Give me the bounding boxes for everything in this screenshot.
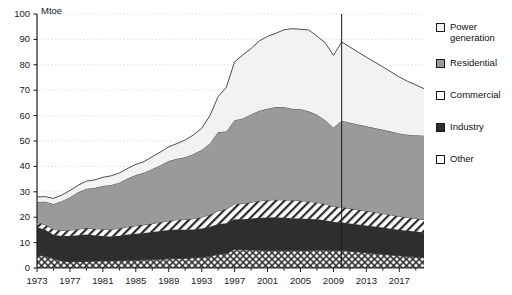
legend-label: Power generation [450, 22, 495, 43]
y-tick-label: 0 [0, 262, 30, 273]
x-tick-label: 1989 [151, 275, 187, 286]
y-tick-label: 20 [0, 211, 30, 222]
chart-plot-container: 0102030405060708090100 19731977198119851… [0, 0, 430, 295]
legend-label: Residential [450, 58, 497, 69]
legend-item-industry[interactable]: Industry [436, 122, 484, 133]
chart-screenshot: ▪ — — 0102030405060708090100 19731977198… [0, 0, 512, 295]
y-axis-unit-label: Mtoe [41, 5, 62, 16]
chart-legend: Power generationResidentialCommercialInd… [430, 0, 512, 295]
x-tick-label: 2005 [282, 275, 318, 286]
legend-item-residential[interactable]: Residential [436, 58, 497, 69]
x-tick-label: 2009 [315, 275, 351, 286]
legend-item-power[interactable]: Power generation [436, 22, 495, 43]
y-tick-label: 90 [0, 33, 30, 44]
y-tick-label: 10 [0, 237, 30, 248]
x-tick-label: 1977 [52, 275, 88, 286]
x-tick-label: 2013 [348, 275, 384, 286]
legend-swatch-diagonal-hatch-box [436, 91, 445, 100]
legend-label: Industry [450, 122, 484, 133]
x-tick-label: 1981 [85, 275, 121, 286]
legend-swatch-gray-box [436, 59, 445, 68]
x-tick-label: 1985 [118, 275, 154, 286]
legend-item-other[interactable]: Other [436, 154, 474, 165]
legend-label: Commercial [450, 90, 501, 101]
y-tick-label: 80 [0, 59, 30, 70]
y-tick-label: 30 [0, 186, 30, 197]
y-tick-label: 60 [0, 110, 30, 121]
legend-label: Other [450, 154, 474, 165]
x-tick-label: 2017 [381, 275, 417, 286]
y-tick-label: 100 [0, 8, 30, 19]
y-tick-label: 40 [0, 160, 30, 171]
legend-swatch-white-box [436, 23, 445, 32]
x-tick-label: 1993 [184, 275, 220, 286]
stacked-area-chart [0, 0, 430, 295]
legend-item-commercial[interactable]: Commercial [436, 90, 501, 101]
legend-swatch-dark-box [436, 123, 445, 132]
x-tick-label: 2001 [250, 275, 286, 286]
y-tick-label: 50 [0, 135, 30, 146]
x-tick-label: 1997 [217, 275, 253, 286]
y-tick-label: 70 [0, 84, 30, 95]
x-tick-label: 1973 [19, 275, 55, 286]
legend-swatch-cross-hatch-box [436, 155, 445, 164]
